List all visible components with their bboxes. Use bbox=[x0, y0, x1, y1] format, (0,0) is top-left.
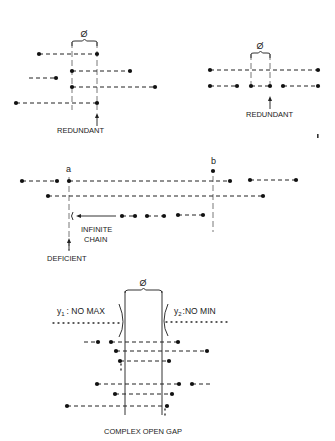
gap-brace bbox=[72, 39, 97, 46]
y1-label: y1: NO MAX bbox=[57, 306, 105, 317]
stray-mark bbox=[317, 134, 319, 138]
endpoint-dot bbox=[95, 52, 99, 56]
empty-set-symbol: Ø bbox=[80, 29, 87, 39]
open-paren bbox=[72, 212, 74, 220]
endpoint-dot bbox=[248, 178, 252, 182]
y2-text: :NO MIN bbox=[183, 306, 216, 316]
endpoint-dot bbox=[235, 84, 239, 88]
redundant-label: REDUNDANT bbox=[246, 110, 294, 119]
infinite-label: INFINITE bbox=[81, 225, 112, 234]
chain-label: CHAIN bbox=[84, 235, 107, 244]
redundant-right-panel: ØREDUNDANT bbox=[208, 41, 320, 138]
endpoint-dot bbox=[145, 214, 149, 218]
endpoint-dot bbox=[294, 178, 298, 182]
endpoint-dot bbox=[113, 392, 117, 396]
left-open-bracket bbox=[119, 304, 123, 337]
redundant-left-panel: ØREDUNDANT bbox=[14, 29, 157, 135]
endpoint-dot bbox=[190, 382, 194, 386]
deficient-label: DEFICIENT bbox=[47, 254, 87, 263]
endpoint-dot bbox=[109, 340, 113, 344]
arrow-up-icon bbox=[268, 96, 272, 101]
gap-brace bbox=[125, 288, 162, 293]
endpoint-dot bbox=[95, 101, 99, 105]
arrow-up-icon bbox=[67, 238, 71, 243]
endpoint-dot bbox=[20, 179, 24, 183]
arrow-up-icon bbox=[95, 113, 99, 118]
endpoint-dot bbox=[67, 179, 71, 183]
endpoint-dot bbox=[114, 349, 118, 353]
endpoint-dot bbox=[70, 85, 74, 89]
endpoint-dot bbox=[167, 359, 171, 363]
endpoint-dot bbox=[268, 84, 272, 88]
diagram-canvas: ØREDUNDANT ØREDUNDANT abINFINITECHAINDEF… bbox=[0, 0, 335, 441]
endpoint-dot bbox=[208, 68, 212, 72]
arrow-left-icon bbox=[76, 214, 81, 218]
endpoint-dot bbox=[208, 84, 212, 88]
endpoint-dot bbox=[55, 179, 59, 183]
endpoint-dot bbox=[281, 84, 285, 88]
complex-open-gap-panel: Øy1: NO MAXy2:NO MINCOMPLEX OPEN GAP bbox=[53, 278, 230, 436]
endpoint-dot bbox=[128, 69, 132, 73]
complex-open-gap-label: COMPLEX OPEN GAP bbox=[104, 427, 182, 436]
endpoint-dot bbox=[249, 84, 253, 88]
right-open-bracket bbox=[164, 304, 168, 336]
label-b: b bbox=[211, 156, 216, 166]
endpoint-dot bbox=[261, 194, 265, 198]
endpoint-dot bbox=[162, 214, 166, 218]
endpoint-dot bbox=[201, 213, 205, 217]
endpoint-dot bbox=[165, 404, 169, 408]
endpoint-dot bbox=[153, 85, 157, 89]
endpoint-dot bbox=[228, 179, 232, 183]
deficient-panel: abINFINITECHAINDEFICIENT bbox=[20, 156, 298, 263]
empty-set-symbol: Ø bbox=[256, 41, 263, 51]
endpoint-dot bbox=[133, 214, 137, 218]
endpoint-dot bbox=[14, 101, 18, 105]
endpoint-dot bbox=[316, 84, 320, 88]
endpoint-dot bbox=[120, 214, 124, 218]
endpoint-dot bbox=[170, 392, 174, 396]
y2-label: y2:NO MIN bbox=[174, 306, 216, 317]
y1-text: : NO MAX bbox=[67, 306, 106, 316]
endpoint-dot bbox=[65, 404, 69, 408]
endpoint-dot bbox=[118, 359, 122, 363]
label-a: a bbox=[66, 164, 71, 174]
endpoint-dot bbox=[205, 349, 209, 353]
endpoint-dot bbox=[70, 69, 74, 73]
empty-set-symbol: Ø bbox=[139, 278, 146, 288]
endpoint-dot bbox=[177, 382, 181, 386]
gap-brace bbox=[251, 51, 270, 58]
endpoint-dot bbox=[176, 213, 180, 217]
redundant-label: REDUNDANT bbox=[57, 126, 105, 135]
endpoint-dot bbox=[37, 52, 41, 56]
endpoint-dot bbox=[46, 194, 50, 198]
gap-types-diagram: ØREDUNDANT ØREDUNDANT abINFINITECHAINDEF… bbox=[0, 0, 335, 441]
endpoint-dot bbox=[95, 382, 99, 386]
endpoint-dot bbox=[176, 340, 180, 344]
b-point-dot bbox=[211, 169, 215, 173]
y1-sub: 1 bbox=[61, 311, 65, 317]
endpoint-dot bbox=[54, 76, 58, 80]
endpoint-dot bbox=[316, 68, 320, 72]
endpoint-dot bbox=[96, 340, 100, 344]
